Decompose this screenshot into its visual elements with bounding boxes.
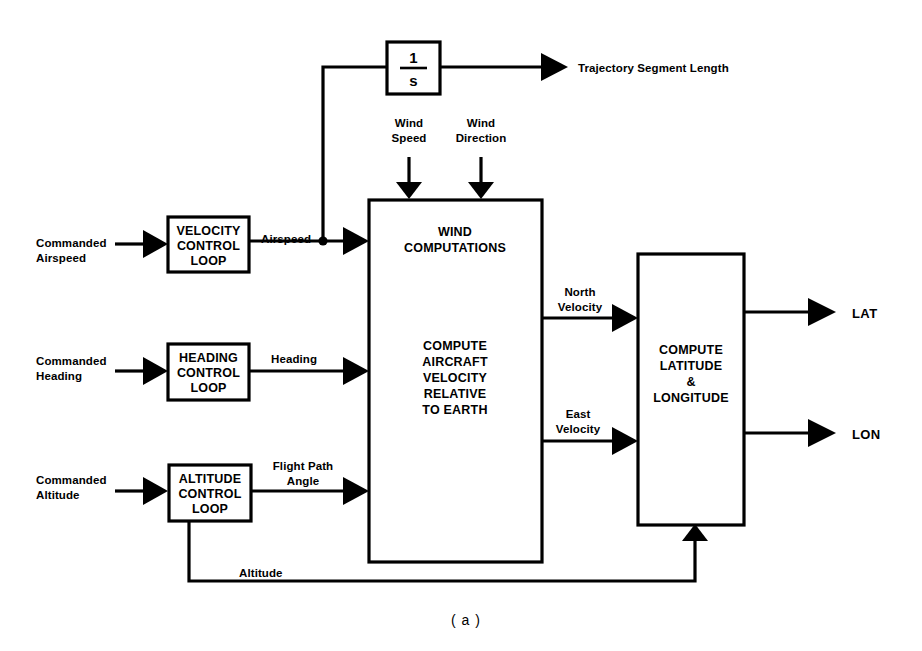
compute-velocity-label-line2: AIRCRAFT	[422, 355, 488, 369]
north-velocity-label-line1: North	[564, 286, 595, 298]
commanded-heading-arrowhead	[143, 357, 168, 385]
trajectory-output-arrowhead	[541, 53, 568, 81]
flight-path-angle-arrowhead	[343, 477, 369, 505]
altitude-feedback-label: Altitude	[239, 567, 283, 579]
east-velocity-label-line1: East	[566, 408, 591, 420]
wind-speed-arrowhead	[396, 182, 422, 199]
heading-loop-label-line2: CONTROL	[177, 366, 240, 380]
commanded-altitude-label-line1: Commanded	[36, 474, 107, 486]
block-diagram: 1 s Trajectory Segment Length Wind Speed…	[0, 0, 922, 651]
integrator-numerator: 1	[409, 49, 417, 66]
lon-output-label: LON	[852, 427, 881, 442]
heading-loop-label-line1: HEADING	[179, 351, 238, 365]
latlon-label-line4: LONGITUDE	[653, 391, 728, 405]
wind-speed-label-line1: Wind	[395, 117, 423, 129]
compute-velocity-label-line5: TO EARTH	[422, 403, 487, 417]
flight-path-angle-label-line2: Angle	[287, 475, 319, 487]
altitude-loop-label-line2: CONTROL	[178, 487, 241, 501]
wind-computations-label-line2: COMPUTATIONS	[404, 241, 506, 255]
figure-caption: ( a )	[451, 612, 481, 628]
velocity-loop-label-line1: VELOCITY	[176, 224, 241, 238]
commanded-heading-label-line1: Commanded	[36, 355, 107, 367]
latlon-label-line1: COMPUTE	[659, 343, 723, 357]
wind-direction-label-line2: Direction	[456, 132, 507, 144]
altitude-loop-label-line3: LOOP	[192, 502, 228, 516]
east-velocity-label-line2: Velocity	[556, 423, 601, 435]
north-velocity-label-line2: Velocity	[558, 301, 603, 313]
wind-computations-label-line1: WIND	[438, 225, 472, 239]
latlon-label-line3: &	[686, 375, 695, 389]
trajectory-segment-length-label: Trajectory Segment Length	[578, 62, 729, 74]
lon-output-arrowhead	[808, 419, 836, 447]
compute-velocity-label-line1: COMPUTE	[423, 339, 487, 353]
wind-direction-label-line1: Wind	[467, 117, 495, 129]
commanded-airspeed-label-line2: Airspeed	[36, 252, 86, 264]
heading-label: Heading	[271, 353, 317, 365]
commanded-airspeed-label-line1: Commanded	[36, 237, 107, 249]
compute-velocity-label-line3: VELOCITY	[423, 371, 488, 385]
lat-output-arrowhead	[808, 298, 836, 326]
figure-canvas: 1 s Trajectory Segment Length Wind Speed…	[0, 0, 922, 651]
integrator-denominator: s	[409, 72, 417, 89]
heading-arrowhead	[343, 357, 369, 385]
commanded-airspeed-arrowhead	[143, 230, 168, 258]
heading-loop-label-line3: LOOP	[190, 381, 226, 395]
wind-direction-arrowhead	[468, 182, 494, 199]
velocity-loop-label-line2: CONTROL	[177, 239, 240, 253]
lat-output-label: LAT	[852, 306, 878, 321]
commanded-heading-label-line2: Heading	[36, 370, 82, 382]
compute-velocity-label-line4: RELATIVE	[424, 387, 486, 401]
airspeed-label: Airspeed	[261, 233, 311, 245]
east-velocity-arrowhead	[612, 427, 638, 455]
flight-path-angle-label-line1: Flight Path	[273, 460, 334, 472]
altitude-loop-label-line1: ALTITUDE	[179, 472, 241, 486]
latlon-label-line2: LATITUDE	[660, 359, 722, 373]
velocity-loop-label-line3: LOOP	[190, 254, 226, 268]
airspeed-arrowhead	[343, 227, 369, 255]
wind-speed-label-line2: Speed	[391, 132, 426, 144]
compute-latitude-longitude-block	[638, 254, 744, 525]
commanded-altitude-label-line2: Altitude	[36, 489, 80, 501]
commanded-altitude-arrowhead	[143, 477, 168, 505]
north-velocity-arrowhead	[612, 304, 638, 332]
